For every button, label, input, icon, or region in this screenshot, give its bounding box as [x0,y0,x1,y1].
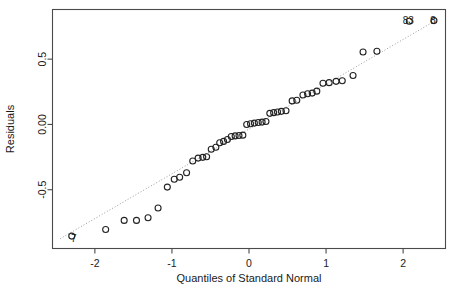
data-point [350,72,356,78]
x-axis-ticks-group: -2-1012 [90,249,406,269]
y-tick-label: -0.5 [36,181,48,199]
data-point [204,154,210,160]
data-point [155,205,161,211]
x-axis-title: Quantiles of Standard Normal [177,272,322,284]
y-axis-title: Residuals [4,104,16,153]
outlier-label: 7 [71,233,77,244]
data-point [145,215,151,221]
point-labels-group: 7838 [71,15,436,244]
y-tick-label: 0.5 [36,52,48,67]
data-point [164,184,170,190]
plot-frame [53,10,446,249]
x-tick-label: -2 [90,257,99,269]
data-point [103,227,109,233]
data-point [326,80,332,86]
data-point [177,174,183,180]
data-point [339,78,345,84]
data-point [121,217,127,223]
data-point [333,78,339,84]
plot-frame-group [53,10,446,249]
qq-plot-figure: 7838 -2-1012 -0.50.000.5 Quantiles of St… [0,0,456,292]
outlier-label: 8 [430,15,436,26]
x-tick-label: 0 [246,257,252,269]
x-tick-label: 2 [400,257,406,269]
x-tick-label: -1 [167,257,176,269]
data-points-group [69,18,437,239]
data-point [360,49,366,55]
qq-reference-line [60,19,438,238]
outlier-label: 83 [403,15,415,26]
data-point [133,217,139,223]
data-point [217,140,223,146]
reference-line-group [60,19,438,238]
data-point [320,80,326,86]
y-tick-label: 0.00 [36,114,48,135]
y-axis-ticks-group: -0.50.000.5 [36,52,53,199]
qq-plot-screenshot: 7838 -2-1012 -0.50.000.5 Quantiles of St… [0,0,456,292]
x-tick-label: 1 [323,257,329,269]
data-point [184,170,190,176]
data-point [374,48,380,54]
